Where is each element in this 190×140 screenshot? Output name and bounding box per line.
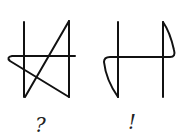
question-mark-label: ? <box>35 115 46 135</box>
diagram-canvas <box>0 0 190 140</box>
left-figure <box>8 21 75 97</box>
exclamation-mark-label: ! <box>128 112 136 132</box>
right-figure <box>104 22 175 97</box>
left-figure-diagonal <box>25 21 69 97</box>
left-figure-horizontal-loop <box>8 56 75 97</box>
